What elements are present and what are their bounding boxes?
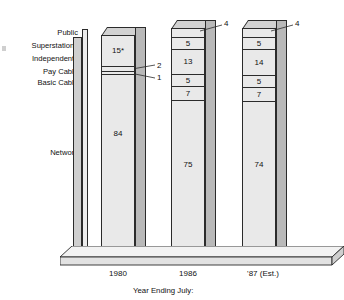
x-tick-1986: 1986	[158, 269, 218, 278]
segment-1986-public[interactable]: 4	[172, 29, 204, 38]
segment-1987-pay-cable[interactable]: 5	[243, 76, 275, 88]
segment-1987-superstations[interactable]: 5	[243, 38, 275, 50]
segment-1987-basic-cable[interactable]: 7	[243, 88, 275, 102]
bar-1980-face: 15* 2 1 84	[101, 35, 135, 251]
segment-1986-independents[interactable]: 13	[172, 50, 204, 75]
bar-1986[interactable]: 4 5 13 5 7 75	[171, 28, 205, 251]
segment-1980-independents[interactable]: 15*	[102, 36, 134, 67]
stacked-bar-chart: Public Superstations Independents Pay Ca…	[0, 0, 344, 300]
segment-1987-network[interactable]: 74	[243, 102, 275, 252]
axis-slab-face	[73, 37, 82, 251]
segment-1986-network[interactable]: 75	[172, 101, 204, 252]
bar-1980-side-panel	[135, 27, 146, 251]
callout-1980-pay-cable: 2	[157, 61, 161, 70]
bar-1980[interactable]: 15* 2 1 84	[101, 35, 135, 251]
axis-slab-side	[82, 29, 88, 251]
category-label-basic-cable: Basic Cable	[37, 78, 78, 87]
bar-1987-face: 4 5 14 5 7 74	[242, 28, 276, 251]
segment-1987-public[interactable]: 4	[243, 29, 275, 38]
category-label-superstations: Superstations	[32, 41, 78, 50]
callout-1986-public: 4	[224, 19, 228, 28]
x-tick-1987: '87 (Est.)	[228, 269, 298, 278]
segment-1987-independents[interactable]: 14	[243, 50, 275, 76]
bar-1986-side-panel	[205, 20, 216, 251]
x-tick-1980: 1980	[88, 269, 148, 278]
callout-1987-public: 4	[295, 19, 299, 28]
segment-1986-superstations[interactable]: 5	[172, 38, 204, 50]
segment-1986-basic-cable[interactable]: 7	[172, 87, 204, 101]
x-axis-title: Year Ending July:	[133, 286, 193, 295]
vertical-axis-slab	[73, 29, 89, 251]
callout-1980-basic-cable: 1	[157, 73, 161, 82]
bar-1987[interactable]: 4 5 14 5 7 74	[242, 28, 276, 251]
bar-1987-side-panel	[276, 20, 287, 251]
segment-1986-pay-cable[interactable]: 5	[172, 75, 204, 87]
bar-1986-face: 4 5 13 5 7 75	[171, 28, 205, 251]
category-label-independents: Independents	[32, 54, 78, 63]
segment-1980-network[interactable]: 84	[102, 75, 134, 252]
